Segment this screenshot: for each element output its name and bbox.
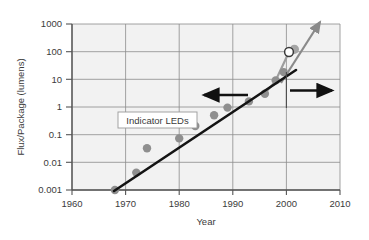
x-tick-label-1990: 1990 <box>222 198 243 209</box>
y-tick-label-1: 1 <box>57 101 62 112</box>
y-tick-label-10: 10 <box>51 74 62 85</box>
indicator-leds-annotation: Indicator LEDs <box>118 112 197 128</box>
highlighted-data-point <box>285 48 294 57</box>
x-tick-label-1980: 1980 <box>169 198 190 209</box>
y-tick-label-0.001: 0.001 <box>38 184 62 195</box>
x-tick-label-2000: 2000 <box>276 198 297 209</box>
x-tick-label-1960: 1960 <box>61 198 82 209</box>
data-point <box>223 103 231 111</box>
data-point <box>210 111 218 119</box>
data-point <box>143 144 151 152</box>
y-tick-label-1000: 1000 <box>41 18 62 29</box>
x-tick-label-1970: 1970 <box>115 198 136 209</box>
y-tick-label-0.01: 0.01 <box>44 157 63 168</box>
x-tick-label-2010: 2010 <box>329 198 350 209</box>
y-axis-title: Flux/Package (lumens) <box>15 58 26 155</box>
y-tick-label-100: 100 <box>46 46 62 57</box>
data-point <box>175 134 183 142</box>
indicator-leds-label-text: Indicator LEDs <box>126 115 189 126</box>
chart-figure: 1000 100 10 1 0.1 0.01 0.001 1960 1970 1… <box>0 0 369 240</box>
x-axis-title: Year <box>196 216 215 227</box>
y-tick-label-0.1: 0.1 <box>49 129 62 140</box>
flux-per-package-chart: 1000 100 10 1 0.1 0.01 0.001 1960 1970 1… <box>0 0 369 240</box>
